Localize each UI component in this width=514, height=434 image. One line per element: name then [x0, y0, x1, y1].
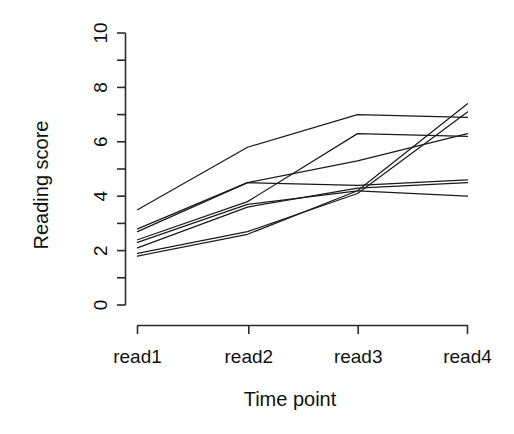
x-tick-label-read2: read2 — [224, 346, 273, 367]
y-tick-label-4: 4 — [90, 190, 111, 201]
chart-background — [0, 0, 514, 434]
x-tick-label-read3: read3 — [334, 346, 383, 367]
y-tick-label-10: 10 — [90, 22, 111, 43]
x-tick-label-read1: read1 — [113, 346, 162, 367]
x-tick-label-read4: read4 — [443, 346, 492, 367]
y-tick-label-0: 0 — [90, 300, 111, 311]
y-tick-label-6: 6 — [90, 137, 111, 148]
y-axis-title: Reading score — [30, 121, 52, 250]
chart-canvas: Reading score Time point 0 2 4 6 8 — [0, 0, 514, 434]
y-tick-label-8: 8 — [90, 82, 111, 93]
y-tick-label-2: 2 — [90, 245, 111, 256]
line-chart-figure: Reading score Time point 0 2 4 6 8 — [0, 0, 514, 434]
x-axis-title: Time point — [244, 388, 337, 410]
